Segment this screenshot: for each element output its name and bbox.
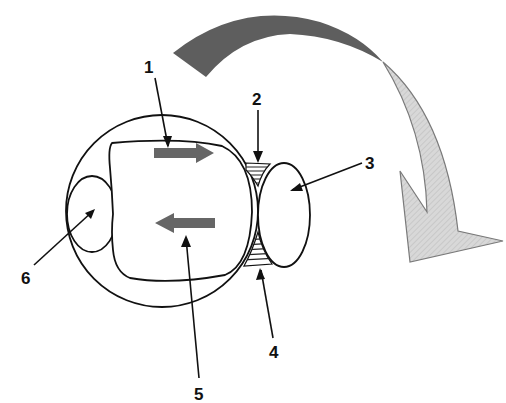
label-2: 2 bbox=[252, 90, 261, 109]
label-3: 3 bbox=[365, 154, 374, 173]
inner-cell-body bbox=[109, 141, 252, 281]
label-1: 1 bbox=[144, 58, 153, 77]
label-5: 5 bbox=[194, 385, 203, 403]
label-6: 6 bbox=[21, 269, 30, 288]
right-oval-cell bbox=[258, 163, 310, 267]
cell-diagram: 1 2 3 4 5 6 bbox=[0, 0, 506, 403]
curved-arrow-dark-icon bbox=[173, 16, 383, 77]
curved-arrow-head-icon bbox=[383, 62, 503, 262]
label-4: 4 bbox=[269, 343, 279, 362]
